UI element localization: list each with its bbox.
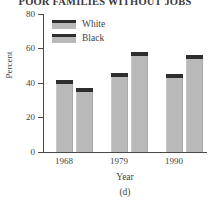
y-tick-label-20: 20 <box>13 113 35 122</box>
x-tick-label-1990: 1990 <box>151 156 197 166</box>
y-tick-label-80: 80 <box>13 10 35 19</box>
bar-1979-white <box>111 73 128 152</box>
y-tick-0 <box>38 152 43 153</box>
bar-cap <box>56 80 73 84</box>
bar-cap <box>111 73 128 77</box>
y-tick-60 <box>38 48 43 49</box>
legend-swatch-icon <box>52 34 76 43</box>
bar-cap <box>76 88 93 92</box>
panel-caption: (d) <box>43 187 207 197</box>
x-axis-title: Year <box>43 172 207 182</box>
bar-1968-black <box>76 88 93 152</box>
legend: White Black <box>52 18 105 46</box>
bar-cap <box>166 74 183 78</box>
y-tick-80 <box>38 14 43 15</box>
y-axis-title: Percent <box>4 30 14 100</box>
legend-item-white: White <box>52 18 105 30</box>
swatch-cap <box>52 34 76 37</box>
y-tick-20 <box>38 117 43 118</box>
x-axis-line <box>43 152 207 153</box>
legend-label-white: White <box>82 20 105 29</box>
y-tick-label-60: 60 <box>13 44 35 53</box>
y-tick-label-0: 0 <box>13 148 35 157</box>
y-tick-label-40: 40 <box>13 79 35 88</box>
figure-panel-d: POOR FAMILIES WITHOUT JOBS 80 60 40 20 0… <box>0 0 210 200</box>
legend-label-black: Black <box>82 34 104 43</box>
bar-cap <box>186 55 203 59</box>
legend-item-black: Black <box>52 32 105 44</box>
bar-1990-white <box>166 74 183 152</box>
bar-1990-black <box>186 55 203 152</box>
y-tick-40 <box>38 83 43 84</box>
swatch-cap <box>52 20 76 23</box>
x-tick-label-1979: 1979 <box>96 156 142 166</box>
bar-cap <box>131 52 148 56</box>
x-tick-label-1968: 1968 <box>41 156 87 166</box>
legend-swatch-icon <box>52 20 76 29</box>
bar-1979-black <box>131 52 148 152</box>
bar-1968-white <box>56 80 73 152</box>
chart-title: POOR FAMILIES WITHOUT JOBS <box>0 0 210 5</box>
